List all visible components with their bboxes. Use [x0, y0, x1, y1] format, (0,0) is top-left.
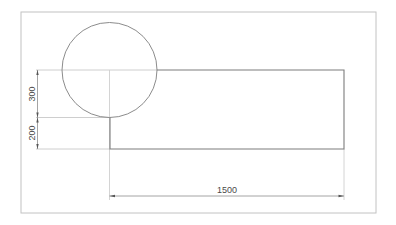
dimension-arrow-icon [110, 195, 116, 197]
dimension-arrow-icon [36, 118, 38, 123]
dimension-label-300: 300 [27, 86, 37, 101]
dimension-label-200: 200 [27, 125, 37, 140]
dimension-arrow-icon [36, 113, 38, 118]
dimension-arrow-icon [36, 70, 38, 75]
dimension-label-1500: 1500 [217, 185, 237, 195]
dimension-arrow-icon [36, 144, 38, 149]
rectangle-shape [110, 70, 344, 149]
technical-drawing-canvas: 300 200 1500 [0, 0, 396, 225]
dimension-arrow-icon [339, 195, 345, 197]
drawing-frame [21, 12, 376, 213]
